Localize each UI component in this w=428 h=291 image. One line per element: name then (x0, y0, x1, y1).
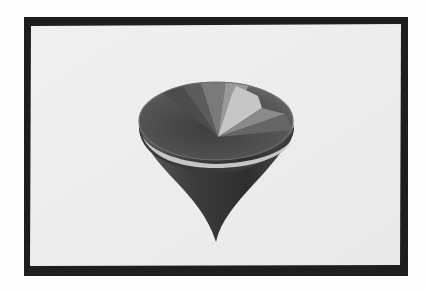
photo (0, 0, 428, 291)
rendered-scene (0, 0, 428, 291)
